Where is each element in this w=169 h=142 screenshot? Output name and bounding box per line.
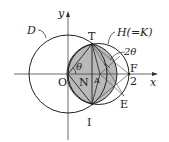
leader-h: [108, 32, 115, 44]
point-t-label: T: [88, 30, 96, 43]
point-i-dot: [91, 103, 93, 105]
circle-h-label: H(=K): [116, 26, 153, 39]
point-a-label: A: [93, 76, 100, 85]
origin-label: O: [58, 76, 67, 89]
angle-2theta-label: 2θ: [123, 46, 136, 57]
geometry-diagram: y x O D H(=K) T I N F E 2 θ 2θ A: [0, 0, 169, 142]
leader-d: [38, 30, 46, 38]
angle-theta-label: θ: [76, 61, 82, 72]
point-n-label: N: [79, 76, 89, 89]
point-i-label: I: [87, 116, 91, 129]
point-f-label: F: [130, 62, 138, 75]
y-axis-label: y: [57, 7, 65, 20]
point-t-dot: [91, 43, 93, 45]
tick-2-label: 2: [130, 75, 137, 88]
point-e-label: E: [120, 98, 128, 111]
x-axis-label: x: [150, 76, 157, 89]
y-axis-arrow: [66, 11, 70, 17]
circle-d-label: D: [26, 24, 36, 37]
